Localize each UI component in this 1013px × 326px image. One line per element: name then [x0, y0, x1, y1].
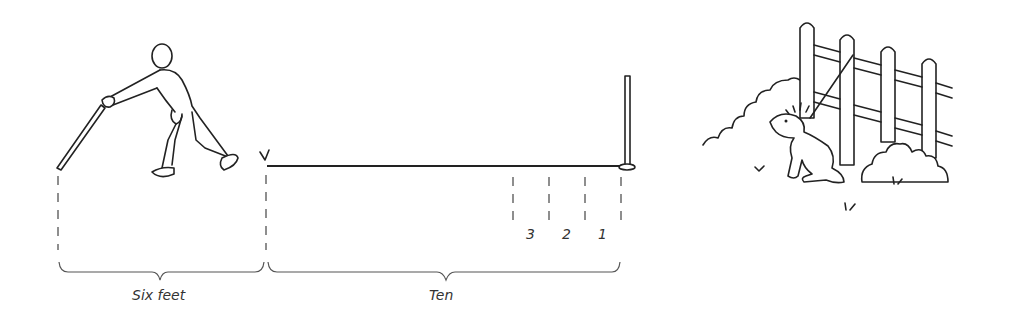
brace-ten [268, 262, 620, 280]
marker-2: 2 [562, 226, 571, 242]
person-figure-icon [102, 44, 238, 177]
label-ten: Ten [429, 287, 453, 303]
brace-six-feet [59, 262, 264, 280]
marker-3: 3 [526, 226, 535, 242]
label-six-feet: Six feet [132, 287, 185, 303]
diagram-canvas [0, 0, 1013, 326]
marker-1: 1 [598, 226, 607, 242]
stick-icon [57, 105, 105, 170]
grass-icon [260, 150, 269, 160]
pole-icon [619, 76, 635, 170]
dog-fence-scene-icon [703, 23, 952, 210]
